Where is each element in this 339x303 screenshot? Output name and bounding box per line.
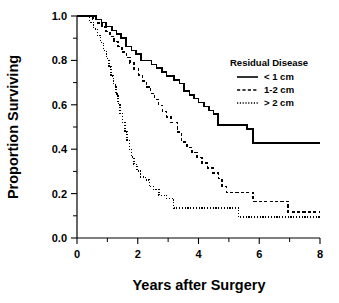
legend-label: < 1 cm (264, 71, 294, 82)
x-tick-label: 2 (135, 248, 141, 260)
y-tick-label: 0.2 (52, 188, 67, 200)
x-axis-ticks: 02468 (74, 238, 323, 260)
x-tick-label: 0 (74, 248, 80, 260)
legend-label: > 2 cm (264, 97, 294, 108)
x-axis-title: Years after Surgery (133, 277, 266, 293)
y-axis-title: Proportion Surviving (5, 55, 21, 199)
legend-title: Residual Disease (230, 57, 308, 68)
y-tick-label: 0.6 (52, 99, 67, 111)
y-tick-label: 0.0 (52, 232, 67, 244)
x-tick-label: 6 (256, 248, 262, 260)
legend: Residual Disease < 1 cm1-2 cm> 2 cm (230, 57, 308, 108)
chart-canvas: 0.00.20.40.60.81.0 02468 Years after Sur… (0, 0, 339, 303)
x-tick-label: 8 (317, 248, 323, 260)
y-axis-ticks: 0.00.20.40.60.81.0 (52, 10, 77, 244)
legend-label: 1-2 cm (264, 84, 294, 95)
survival-curve--2-cm (77, 16, 320, 217)
y-tick-label: 0.8 (52, 54, 67, 66)
x-tick-label: 4 (195, 248, 202, 260)
legend-entries: < 1 cm1-2 cm> 2 cm (237, 71, 294, 108)
series-curves (77, 16, 320, 217)
y-tick-label: 1.0 (52, 10, 67, 22)
survival-curve-1-2-cm (77, 16, 320, 212)
axes-group (77, 16, 320, 238)
y-tick-label: 0.4 (52, 143, 68, 155)
survival-chart-figure: 0.00.20.40.60.81.0 02468 Years after Sur… (0, 0, 339, 303)
